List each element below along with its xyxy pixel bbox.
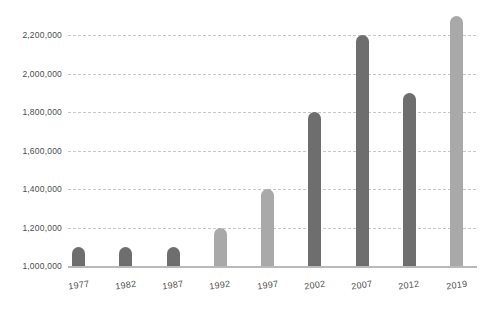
x-tick-label: 1987 <box>151 277 194 294</box>
bar-2007 <box>356 35 369 266</box>
x-tick-label: 2019 <box>435 277 478 294</box>
x-tick-label: 2007 <box>340 277 383 294</box>
y-tick-label: 1,400,000 <box>2 184 62 194</box>
bar-1982 <box>119 247 132 266</box>
y-tick-label: 2,000,000 <box>2 69 62 79</box>
y-tick-label: 2,200,000 <box>2 30 62 40</box>
x-tick-label: 1977 <box>57 277 100 294</box>
y-tick-label: 1,200,000 <box>2 223 62 233</box>
gridline <box>68 74 477 75</box>
y-tick-label: 1,000,000 <box>2 261 62 271</box>
bar-1977 <box>72 247 85 266</box>
y-tick-label: 1,800,000 <box>2 107 62 117</box>
x-tick-label: 1997 <box>246 277 289 294</box>
x-tick-label: 2012 <box>388 277 431 294</box>
bar-2002 <box>308 112 321 266</box>
bar-1992 <box>214 228 227 267</box>
x-tick-label: 2002 <box>293 277 336 294</box>
gridline <box>68 35 477 36</box>
bar-2012 <box>403 93 416 266</box>
x-tick-label: 1982 <box>104 277 147 294</box>
bar-1997 <box>261 189 274 266</box>
y-tick-label: 1,600,000 <box>2 146 62 156</box>
bar-1987 <box>167 247 180 266</box>
x-tick-label: 1992 <box>199 277 242 294</box>
bar-chart: 1,000,0001,200,0001,400,0001,600,0001,80… <box>0 0 499 310</box>
bar-2019 <box>450 16 463 266</box>
